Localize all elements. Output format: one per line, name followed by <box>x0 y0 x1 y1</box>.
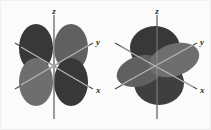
z-axis-label: z <box>154 6 159 16</box>
left-orbital-diagram: z y x <box>1 1 106 130</box>
right-orbital-diagram: z y x <box>107 1 211 130</box>
x-axis-label: x <box>95 85 101 95</box>
z-axis-label: z <box>51 6 56 16</box>
y-axis-label: y <box>95 37 101 47</box>
x-axis-label: x <box>199 85 205 95</box>
y-axis-label: y <box>199 37 205 47</box>
orbital-figure: z y x z y x <box>0 0 211 130</box>
orbital-panel-right: z y x <box>107 1 211 130</box>
orbital-panel-left: z y x <box>1 1 106 130</box>
lobe-front-left-light <box>19 58 53 106</box>
lobe-front-right-dark <box>54 58 88 106</box>
